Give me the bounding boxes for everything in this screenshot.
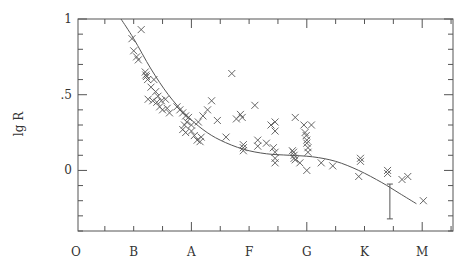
data-point-x-marker <box>318 159 325 166</box>
y-axis-label: lg R <box>12 111 26 136</box>
data-point-x-marker <box>182 129 189 136</box>
data-point-x-marker <box>159 106 166 113</box>
data-point-x-marker <box>272 118 279 125</box>
data-point-x-marker <box>188 128 195 135</box>
data-point-x-marker <box>303 167 310 174</box>
x-tick-label: M <box>416 245 428 259</box>
data-point-x-marker <box>268 122 275 129</box>
data-point-x-marker <box>199 112 206 119</box>
data-point-x-marker <box>150 76 157 83</box>
data-point-x-marker <box>223 134 230 141</box>
data-point-x-marker <box>272 128 279 135</box>
y-tick-label: 0 <box>64 163 72 177</box>
plot-area <box>121 19 427 219</box>
data-point-x-marker <box>198 134 205 141</box>
x-tick-label: K <box>360 245 370 259</box>
data-point-x-marker <box>135 56 142 63</box>
data-point-x-marker <box>138 26 145 33</box>
data-point-x-marker <box>197 138 204 145</box>
data-point-x-marker <box>292 114 299 121</box>
data-point-x-marker <box>204 106 211 113</box>
x-tick-label: A <box>186 245 196 259</box>
data-point-x-marker <box>272 159 279 166</box>
error-bar <box>387 184 393 219</box>
data-point-x-marker <box>304 149 311 156</box>
data-point-x-marker <box>355 173 362 180</box>
data-point-x-marker <box>251 102 258 109</box>
x-tick-label: F <box>245 245 253 259</box>
data-point-x-marker <box>188 122 195 129</box>
y-tick-label: 1 <box>64 12 72 26</box>
data-point-x-marker <box>214 117 221 124</box>
x-tick-label: B <box>129 245 138 259</box>
data-point-x-marker <box>308 122 315 129</box>
data-point-x-marker <box>208 97 215 104</box>
y-tick-labels: 1.50 <box>61 12 72 177</box>
data-point-x-marker <box>237 111 244 118</box>
fit-curve <box>121 19 416 204</box>
data-markers <box>128 26 426 204</box>
data-point-x-marker <box>420 197 427 204</box>
data-point-x-marker <box>254 143 261 150</box>
y-tick-label: .5 <box>61 88 72 102</box>
data-point-x-marker <box>296 159 303 166</box>
x-tick-label: O <box>71 245 81 259</box>
data-point-x-marker <box>145 96 152 103</box>
data-point-x-marker <box>195 118 202 125</box>
x-tick-labels: OBAFGKM <box>71 245 428 259</box>
chart: 1.50 OBAFGKM lg R <box>0 0 469 273</box>
x-tick-label: G <box>302 245 312 259</box>
data-point-x-marker <box>254 137 261 144</box>
data-point-x-marker <box>329 162 336 169</box>
data-point-x-marker <box>228 70 235 77</box>
data-point-x-marker <box>263 140 270 147</box>
data-point-x-marker <box>130 47 137 54</box>
data-point-x-marker <box>300 122 307 129</box>
